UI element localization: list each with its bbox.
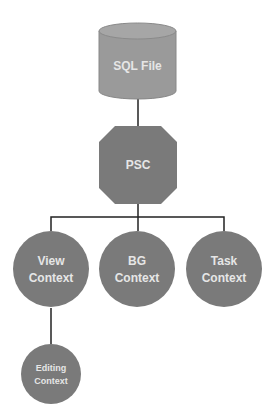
- node-editing-context[interactable]: Editing Context: [21, 344, 81, 404]
- editing-context-line1: Editing: [36, 363, 67, 373]
- task-context-line1: Task: [211, 254, 238, 268]
- node-bg-context[interactable]: BG Context: [99, 231, 175, 307]
- sql-file-label: SQL File: [113, 59, 162, 73]
- circle-shape: [13, 231, 89, 307]
- circle-shape: [21, 344, 81, 404]
- node-task-context[interactable]: Task Context: [186, 231, 262, 307]
- cylinder-top: [99, 23, 176, 39]
- view-context-line2: Context: [29, 271, 74, 285]
- diagram-canvas: SQL File PSC View Context BG Context Tas…: [0, 0, 275, 420]
- circle-shape: [186, 231, 262, 307]
- view-context-line1: View: [37, 254, 65, 268]
- bg-context-line2: Context: [115, 271, 160, 285]
- node-sql-file[interactable]: SQL File: [99, 23, 176, 99]
- node-psc[interactable]: PSC: [99, 126, 177, 204]
- bg-context-line1: BG: [128, 254, 146, 268]
- node-view-context[interactable]: View Context: [13, 231, 89, 307]
- circle-shape: [99, 231, 175, 307]
- psc-label: PSC: [126, 158, 151, 172]
- editing-context-line2: Context: [34, 376, 68, 386]
- task-context-line2: Context: [202, 271, 247, 285]
